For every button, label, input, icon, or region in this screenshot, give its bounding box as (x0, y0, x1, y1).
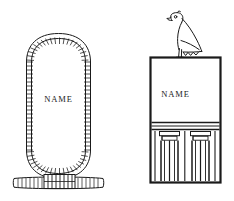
rope-loop-inner (32, 39, 86, 174)
horus-falcon-icon (167, 11, 202, 57)
tie-binding (44, 175, 75, 189)
serekh-drawing (117, 0, 234, 201)
cartouche-figure: NAME (0, 0, 117, 201)
cartouche-name-label: NAME (0, 94, 117, 104)
rope-loop-outer (27, 34, 91, 179)
serekh-name-label: NAME (117, 89, 234, 99)
serekh-figure: NAME (117, 0, 234, 201)
figure-root: NAME (0, 0, 234, 201)
rope-hatching (25, 38, 92, 175)
